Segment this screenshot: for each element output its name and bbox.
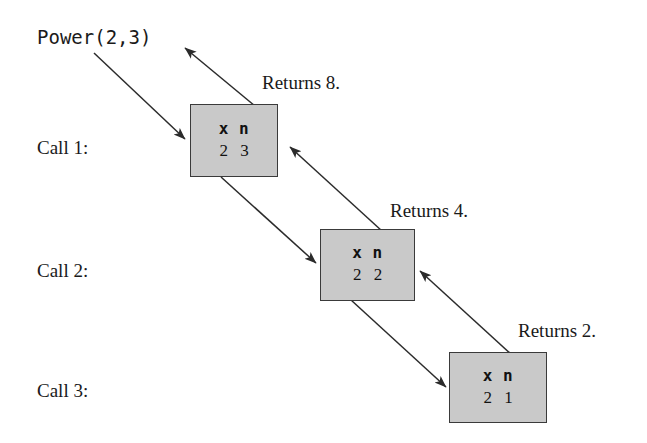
frame-3-values: 2 1: [479, 388, 516, 408]
return-arrow-2: [290, 147, 382, 231]
returns-label-1: Returns 8.: [262, 72, 340, 94]
call-label-3: Call 3:: [37, 380, 88, 402]
returns-label-2: Returns 4.: [390, 200, 468, 222]
return-arrow-3: [420, 271, 512, 355]
returns-label-3: Returns 2.: [518, 320, 596, 342]
frame-2-values: 2 2: [349, 265, 386, 285]
recursion-diagram: Power(2,3) Call 1: Call 2: Call 3: Retur…: [0, 0, 647, 443]
call-label-1: Call 1:: [37, 137, 88, 159]
arrow-layer: [0, 0, 647, 443]
frame-3-vars: x n: [483, 368, 513, 385]
frame-2-vars: x n: [352, 245, 382, 262]
frame-1-values: 2 3: [215, 141, 252, 161]
call-arrow-1: [94, 53, 185, 139]
call-arrow-2: [221, 177, 316, 263]
frame-1-vars: x n: [219, 121, 249, 138]
return-arrow-1: [185, 48, 255, 106]
stack-frame-1: x n 2 3: [190, 104, 278, 177]
stack-frame-2: x n 2 2: [320, 229, 415, 301]
call-label-2: Call 2:: [37, 260, 88, 282]
invocation-label: Power(2,3): [37, 26, 151, 48]
call-arrow-3: [351, 300, 446, 387]
stack-frame-3: x n 2 1: [449, 352, 547, 423]
